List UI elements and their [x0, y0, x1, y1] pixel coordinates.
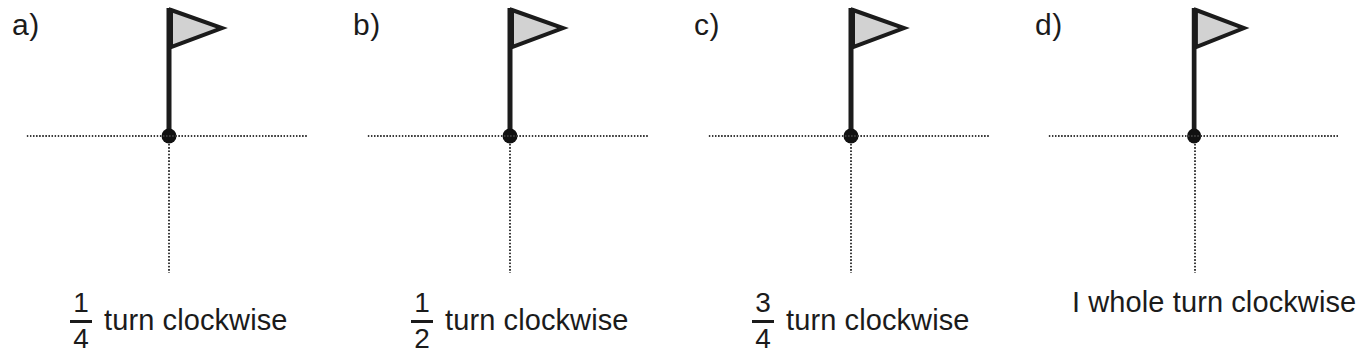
- fraction-c: 3 4: [752, 289, 774, 354]
- vertical-dotted-axis: [168, 143, 170, 273]
- panel-c: c) 3 4 turn clockwise: [682, 0, 1017, 357]
- horizontal-dotted-axis: [1048, 135, 1338, 137]
- fraction-a: 1 4: [70, 289, 92, 354]
- panel-letter-a: a): [12, 10, 40, 40]
- panel-letter-c: c): [694, 10, 720, 40]
- horizontal-dotted-axis: [367, 135, 648, 137]
- horizontal-dotted-axis: [708, 135, 989, 137]
- fraction-denominator: 4: [753, 324, 773, 354]
- vertical-dotted-axis: [850, 143, 852, 273]
- fraction-numerator: 1: [412, 289, 432, 319]
- flag-banner-icon: [1196, 10, 1244, 47]
- panel-d: d) I whole turn clockwise: [1023, 0, 1338, 357]
- fraction-denominator: 2: [412, 324, 432, 354]
- caption-text-b: turn clockwise: [445, 306, 629, 335]
- flag-banner-icon: [853, 10, 904, 47]
- panel-letter-b: b): [353, 10, 381, 40]
- panel-letter-d: d): [1035, 10, 1063, 40]
- caption-text-c: turn clockwise: [786, 306, 970, 335]
- caption-text-d: I whole turn clockwise: [1072, 288, 1356, 317]
- flag-banner-icon: [171, 10, 222, 47]
- vertical-dotted-axis: [1194, 143, 1196, 273]
- caption-text-a: turn clockwise: [104, 306, 288, 335]
- vertical-dotted-axis: [509, 143, 511, 273]
- fraction-numerator: 3: [753, 289, 773, 319]
- horizontal-dotted-axis: [26, 135, 307, 137]
- fraction-denominator: 4: [71, 324, 91, 354]
- fraction-b: 1 2: [411, 289, 433, 354]
- flag-banner-icon: [512, 10, 563, 47]
- fraction-numerator: 1: [71, 289, 91, 319]
- panel-a: a) 1 4 turn clockwise: [0, 0, 335, 357]
- panel-b: b) 1 2 turn clockwise: [341, 0, 676, 357]
- caption-d: I whole turn clockwise: [1023, 288, 1360, 317]
